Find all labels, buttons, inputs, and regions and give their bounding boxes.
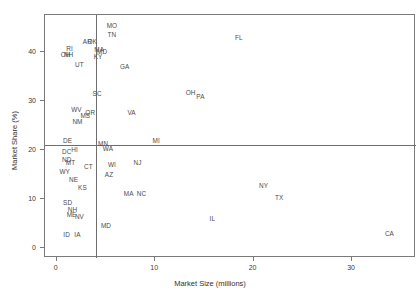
data-point-label: NY	[259, 183, 268, 189]
data-point-label: NJ	[133, 160, 141, 166]
x-axis-tick-label: 30	[347, 264, 355, 271]
data-point-label: AZ	[105, 171, 113, 177]
data-point-label: CT	[84, 163, 93, 169]
data-point-label: GA	[120, 63, 129, 69]
data-point-label: CA	[385, 231, 394, 237]
y-axis-tick-label: 40	[14, 47, 36, 54]
data-point-label: NM	[72, 118, 82, 124]
data-point-label: UT	[75, 62, 84, 68]
data-point-label: TX	[275, 195, 283, 201]
data-point-label: NV	[75, 214, 84, 220]
data-point-label: KS	[78, 185, 87, 191]
data-point-label: MD	[101, 222, 111, 228]
data-point-label: ID	[63, 232, 70, 238]
y-axis-tick	[40, 149, 44, 150]
x-axis-tick-label: 10	[150, 264, 158, 271]
data-point-label: MA	[124, 191, 134, 197]
y-axis-tick	[40, 100, 44, 101]
data-point-label: MT	[66, 160, 75, 166]
scatter-chart: MOTNAROKRIMAMDOHNHKYUTGAFLOHPASCWVORMSVA…	[0, 0, 420, 303]
data-point-label: WY	[59, 168, 70, 174]
y-axis-tick	[40, 51, 44, 52]
data-point-label: HI	[71, 147, 78, 153]
data-point-label: TN	[108, 32, 117, 38]
y-axis-tick-label: 10	[14, 195, 36, 202]
x-axis-tick	[56, 257, 57, 261]
x-axis-tick	[351, 257, 352, 261]
data-point-label: DE	[63, 137, 72, 143]
y-axis-title: Market Share (%)	[10, 93, 19, 189]
data-point-label: FL	[235, 35, 243, 41]
data-point-label: PA	[196, 94, 204, 100]
data-point-label: MI	[153, 137, 160, 143]
x-axis-tick-label: 0	[54, 264, 58, 271]
data-point-label: DC	[62, 149, 71, 155]
data-point-label: SC	[93, 91, 102, 97]
y-axis-tick-label: 0	[14, 244, 36, 251]
data-point-label: VA	[127, 109, 135, 115]
data-point-label: KY	[94, 54, 103, 60]
y-axis-tick	[40, 247, 44, 248]
data-point-label: NE	[69, 177, 78, 183]
x-axis-tick-label: 20	[249, 264, 257, 271]
plot-area: MOTNAROKRIMAMDOHNHKYUTGAFLOHPASCWVORMSVA…	[44, 14, 415, 257]
data-point-label: WI	[108, 162, 116, 168]
data-point-label: IL	[210, 216, 216, 222]
y-axis-tick	[40, 198, 44, 199]
x-axis-tick	[253, 257, 254, 261]
data-point-label: IA	[74, 232, 80, 238]
x-axis-tick	[154, 257, 155, 261]
data-point-label: NC	[137, 191, 146, 197]
x-axis-title: Market Size (millions)	[0, 279, 420, 288]
data-point-label: OH	[186, 90, 196, 96]
data-point-label: MO	[107, 23, 118, 29]
data-point-label: NH	[64, 52, 73, 58]
data-point-label: WA	[103, 145, 113, 151]
data-point-label: OK	[88, 38, 97, 44]
